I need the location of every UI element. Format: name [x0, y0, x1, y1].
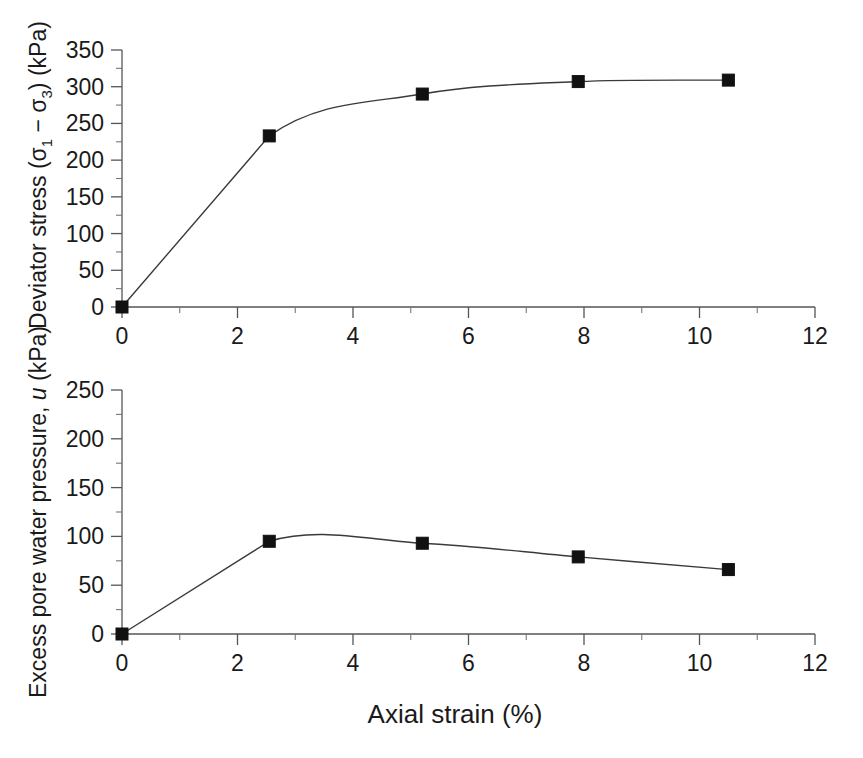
bottom-y-axis-title: Excess pore water pressure, u (kPa)	[25, 326, 51, 698]
bottom-data-point	[722, 564, 734, 576]
bottom-x-tick-label: 8	[578, 650, 591, 676]
bottom-data-point	[572, 551, 584, 563]
bottom-panel: 050100150200250 024681012 Excess pore wa…	[25, 326, 828, 698]
bottom-x-tick-label: 0	[116, 650, 129, 676]
top-y-tick-label: 50	[78, 257, 104, 283]
top-x-tick-label: 10	[687, 323, 713, 349]
bottom-ylabel-prefix: Excess pore water pressure,	[25, 400, 51, 698]
bottom-y-axis: 050100150200250	[66, 377, 122, 647]
top-ylabel-main: Deviator stress (	[25, 161, 51, 329]
top-x-tick-label: 12	[802, 323, 828, 349]
bottom-x-tick-label: 6	[462, 650, 475, 676]
top-data-point	[116, 301, 128, 313]
bottom-x-axis: 024681012	[116, 634, 828, 676]
bottom-y-tick-label: 150	[66, 475, 104, 501]
top-panel: 050100150200250300350 024681012 Deviator…	[25, 21, 828, 349]
top-x-tick-label: 0	[116, 323, 129, 349]
bottom-y-tick-label: 50	[78, 572, 104, 598]
bottom-x-tick-label: 12	[802, 650, 828, 676]
top-ylabel-sub3: 3	[38, 90, 55, 98]
top-y-tick-label: 300	[66, 74, 104, 100]
bottom-y-tick-label: 200	[66, 426, 104, 452]
top-data-point	[263, 130, 275, 142]
top-ylabel-sub1: 1	[38, 139, 55, 147]
bottom-x-tick-label: 10	[687, 650, 713, 676]
bottom-data-point	[116, 628, 128, 640]
top-x-axis: 024681012	[116, 307, 828, 349]
bottom-y-tick-label: 250	[66, 377, 104, 403]
top-x-tick-label: 4	[347, 323, 360, 349]
top-ylabel-minus: −	[25, 113, 51, 139]
top-y-tick-label: 150	[66, 184, 104, 210]
bottom-series-markers	[116, 535, 734, 640]
top-data-point	[416, 88, 428, 100]
top-y-tick-label: 200	[66, 147, 104, 173]
top-y-axis: 050100150200250300350	[66, 37, 122, 320]
top-ylabel-sigma1: σ	[25, 147, 51, 161]
top-ylabel-sigma3: σ	[25, 98, 51, 112]
top-y-tick-label: 250	[66, 110, 104, 136]
top-x-tick-label: 6	[462, 323, 475, 349]
bottom-ylabel-symbol: u	[25, 387, 51, 400]
top-y-tick-label: 350	[66, 37, 104, 63]
top-data-point	[722, 74, 734, 86]
top-series-markers	[116, 74, 734, 313]
figure-container: 050100150200250300350 024681012 Deviator…	[0, 0, 863, 758]
svg-text:Deviator stress (σ1 − σ3) (kPa: Deviator stress (σ1 − σ3) (kPa)	[25, 21, 55, 329]
svg-text:Excess pore water pressure, u: Excess pore water pressure, u (kPa)	[25, 326, 51, 698]
bottom-data-point	[416, 537, 428, 549]
bottom-ylabel-suffix: (kPa)	[25, 326, 51, 387]
top-ylabel-tail: ) (kPa)	[25, 21, 51, 90]
bottom-data-point	[263, 535, 275, 547]
bottom-y-tick-label: 100	[66, 523, 104, 549]
chart-svg: 050100150200250300350 024681012 Deviator…	[0, 0, 863, 758]
x-axis-title: Axial strain (%)	[368, 699, 543, 729]
top-y-tick-label: 100	[66, 221, 104, 247]
bottom-x-tick-label: 4	[347, 650, 360, 676]
bottom-y-tick-label: 0	[91, 621, 104, 647]
top-y-tick-label: 0	[91, 294, 104, 320]
top-series-line	[122, 80, 728, 307]
top-y-axis-title: Deviator stress (σ1 − σ3) (kPa)	[25, 21, 55, 329]
bottom-x-tick-label: 2	[231, 650, 244, 676]
top-x-tick-label: 8	[578, 323, 591, 349]
top-data-point	[572, 76, 584, 88]
top-x-tick-label: 2	[231, 323, 244, 349]
